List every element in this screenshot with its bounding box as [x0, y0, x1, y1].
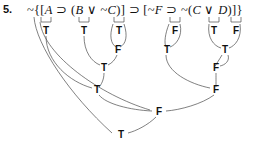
connector-arcs	[0, 0, 259, 152]
formula-segment: ∨	[201, 3, 218, 17]
item-number: 5.	[3, 3, 12, 15]
truth-value: F	[213, 85, 219, 95]
formula-segment: C	[108, 3, 117, 17]
formula-segment: )]}	[228, 3, 243, 17]
formula-segment: A	[45, 3, 53, 17]
formula-segment: D	[218, 3, 227, 17]
formula-segment: ⊃ ~(	[163, 3, 193, 17]
truth-value: T	[116, 26, 122, 36]
truth-value: F	[115, 45, 121, 55]
truth-value: T	[118, 130, 124, 140]
truth-value: T	[94, 85, 100, 95]
truth-value: T	[101, 63, 107, 73]
truth-value: T	[164, 45, 170, 55]
truth-value: F	[233, 26, 239, 36]
truth-value: F	[156, 107, 162, 117]
truth-value: T	[211, 26, 217, 36]
formula-segment: )] ⊃ [~	[116, 3, 155, 17]
truth-value: T	[222, 45, 228, 55]
formula-segment: ∨ ~	[83, 3, 107, 17]
formula-segment: F	[155, 3, 163, 17]
truth-value: F	[213, 63, 219, 73]
truth-value: T	[43, 26, 49, 36]
truth-value: F	[172, 26, 178, 36]
formula-segment: C	[192, 3, 201, 17]
truth-value: T	[81, 26, 87, 36]
logic-formula: ~{[A ⊃ (B ∨ ~C)] ⊃ [~F ⊃ ~(C ∨ D)]}	[27, 2, 243, 18]
formula-segment: ~{[	[27, 3, 45, 17]
formula-segment: ⊃ (	[53, 3, 76, 17]
truth-value-tree-exercise: 5. ~{[A ⊃ (B ∨ ~C)] ⊃ [~F ⊃ ~(C ∨ D)]}	[0, 0, 259, 152]
